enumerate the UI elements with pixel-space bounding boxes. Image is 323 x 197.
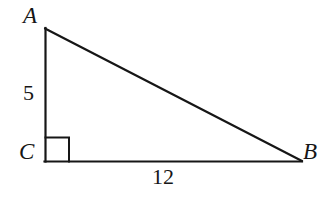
geometry-figure: A C B 5 12	[0, 0, 323, 197]
vertex-label-c: C	[19, 140, 34, 163]
side-length-label-cb: 12	[152, 166, 174, 188]
triangle-hypotenuse-ab	[45, 29, 302, 162]
side-length-label-ac: 5	[23, 82, 34, 104]
vertex-label-b: B	[303, 140, 317, 163]
right-angle-marker-icon	[46, 138, 70, 162]
vertex-label-a: A	[23, 4, 37, 27]
